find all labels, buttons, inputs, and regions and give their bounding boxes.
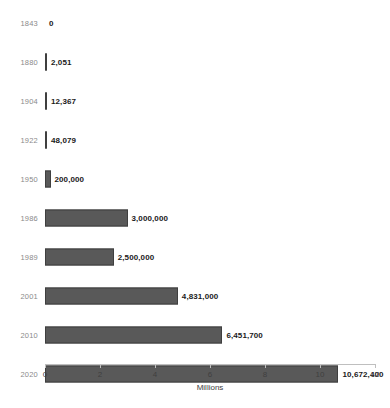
x-tick-label-10: 10 [316,370,325,379]
category-label-2001: 2001 [0,292,38,301]
x-tick-8 [265,364,266,368]
category-label-1950: 1950 [0,175,38,184]
bar-2001[interactable] [45,288,178,305]
bar-1950[interactable] [45,171,51,188]
category-label-1880: 1880 [0,58,38,67]
x-tick-label-0: 0 [43,370,47,379]
bar-1922[interactable] [45,132,47,149]
x-tick-6 [210,364,211,368]
x-tick-4 [155,364,156,368]
category-label-1843: 1843 [0,19,38,28]
bar-1986[interactable] [45,210,128,227]
x-tick-label-2: 2 [98,370,102,379]
value-label-2001: 4,831,000 [182,292,219,301]
bar-2010[interactable] [45,327,222,344]
value-label-1950: 200,000 [55,175,85,184]
category-label-1989: 1989 [0,253,38,262]
x-tick-10 [320,364,321,368]
category-label-2010: 2010 [0,331,38,340]
x-axis-title-label: Millions [197,383,224,392]
value-label-1904: 12,367 [51,97,76,106]
value-label-1922: 48,079 [51,136,76,145]
bar-1904[interactable] [45,93,47,110]
category-label-1922: 1922 [0,136,38,145]
bar-chart: 1843018802,051190412,367192248,079195020… [0,0,390,408]
bar-1880[interactable] [45,54,47,71]
x-axis-title: Millions [0,383,390,392]
bar-row: 20106,451,700 [0,322,390,348]
x-tick-label-6: 6 [208,370,212,379]
x-tick-0 [45,364,46,368]
bar-row: 19892,500,000 [0,244,390,270]
bar-row: 192248,079 [0,127,390,153]
category-label-2020: 2020 [0,370,38,379]
category-label-1904: 1904 [0,97,38,106]
x-tick-label-12: 12 [371,370,380,379]
bar-row: 190412,367 [0,88,390,114]
category-label-1986: 1986 [0,214,38,223]
value-label-2010: 6,451,700 [226,331,263,340]
bar-row: 18802,051 [0,49,390,75]
bar-row: 18430 [0,10,390,36]
value-label-1989: 2,500,000 [118,253,155,262]
bar-row: 19863,000,000 [0,205,390,231]
x-tick-label-8: 8 [263,370,267,379]
value-label-1843: 0 [49,19,54,28]
bar-row: 1950200,000 [0,166,390,192]
x-tick-2 [100,364,101,368]
bar-row: 20014,831,000 [0,283,390,309]
value-label-1986: 3,000,000 [132,214,169,223]
value-label-1880: 2,051 [51,58,72,67]
bar-1989[interactable] [45,249,114,266]
x-tick-12 [375,364,376,368]
x-tick-label-4: 4 [153,370,157,379]
bar-2020[interactable] [45,366,338,383]
